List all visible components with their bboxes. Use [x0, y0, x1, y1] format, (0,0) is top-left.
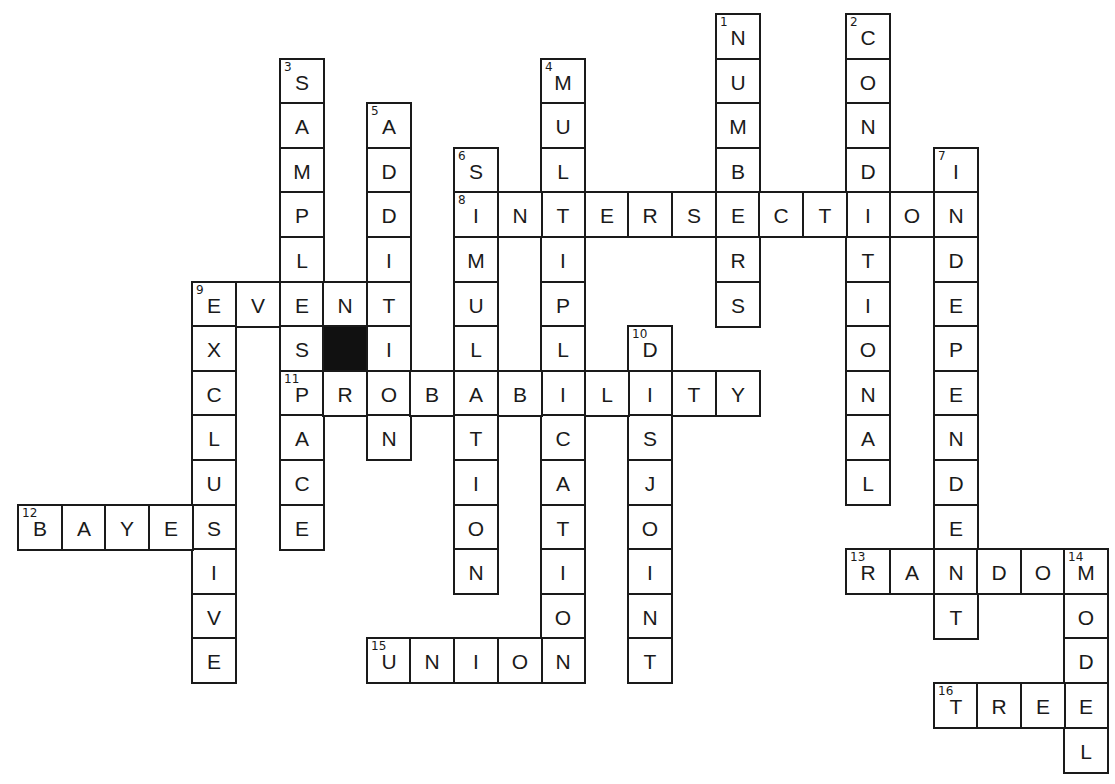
- crossword-cell[interactable]: D: [933, 236, 979, 283]
- crossword-cell[interactable]: O: [627, 504, 673, 551]
- crossword-cell[interactable]: O: [889, 191, 935, 238]
- crossword-cell[interactable]: L: [584, 370, 630, 417]
- crossword-cell[interactable]: A: [540, 459, 586, 506]
- crossword-cell[interactable]: A: [279, 414, 325, 461]
- crossword-cell[interactable]: M: [279, 147, 325, 194]
- crossword-cell[interactable]: A: [845, 414, 891, 461]
- crossword-cell[interactable]: I: [627, 548, 673, 595]
- crossword-cell[interactable]: L: [540, 325, 586, 372]
- crossword-cell[interactable]: I: [540, 370, 586, 417]
- crossword-cell[interactable]: Y: [715, 370, 761, 417]
- crossword-cell[interactable]: T: [933, 593, 979, 640]
- crossword-cell[interactable]: E: [933, 370, 979, 417]
- crossword-cell[interactable]: O: [1063, 593, 1109, 640]
- crossword-cell[interactable]: N: [453, 548, 499, 595]
- crossword-cell[interactable]: N: [845, 102, 891, 149]
- crossword-cell[interactable]: P: [279, 191, 325, 238]
- crossword-cell[interactable]: N: [933, 548, 979, 595]
- crossword-cell[interactable]: L: [1063, 727, 1109, 774]
- crossword-cell[interactable]: E: [148, 504, 194, 551]
- crossword-cell[interactable]: R: [976, 682, 1022, 729]
- crossword-cell[interactable]: O: [453, 504, 499, 551]
- crossword-cell[interactable]: I: [366, 236, 412, 283]
- crossword-cell[interactable]: D: [976, 548, 1022, 595]
- crossword-cell[interactable]: 10D: [627, 325, 673, 372]
- crossword-cell[interactable]: T: [671, 370, 717, 417]
- crossword-cell[interactable]: 9E: [191, 281, 237, 328]
- crossword-cell[interactable]: T: [540, 504, 586, 551]
- crossword-cell[interactable]: O: [497, 637, 543, 684]
- crossword-cell[interactable]: E: [584, 191, 630, 238]
- crossword-cell[interactable]: R: [627, 191, 673, 238]
- crossword-cell[interactable]: N: [366, 414, 412, 461]
- crossword-cell[interactable]: N: [933, 191, 979, 238]
- crossword-cell[interactable]: B: [715, 147, 761, 194]
- crossword-cell[interactable]: D: [366, 147, 412, 194]
- crossword-cell[interactable]: V: [191, 593, 237, 640]
- crossword-cell[interactable]: I: [540, 236, 586, 283]
- crossword-cell[interactable]: N: [409, 637, 455, 684]
- crossword-cell[interactable]: L: [279, 236, 325, 283]
- crossword-cell[interactable]: T: [453, 414, 499, 461]
- crossword-cell[interactable]: O: [366, 370, 412, 417]
- crossword-cell[interactable]: I: [845, 191, 891, 238]
- crossword-cell[interactable]: O: [845, 58, 891, 105]
- crossword-cell[interactable]: I: [453, 637, 499, 684]
- crossword-cell[interactable]: B: [409, 370, 455, 417]
- crossword-cell[interactable]: R: [715, 236, 761, 283]
- crossword-cell[interactable]: 12B: [17, 504, 63, 551]
- crossword-cell[interactable]: L: [191, 414, 237, 461]
- crossword-cell[interactable]: L: [845, 459, 891, 506]
- crossword-cell[interactable]: T: [845, 236, 891, 283]
- crossword-cell[interactable]: T: [366, 281, 412, 328]
- crossword-cell[interactable]: U: [453, 281, 499, 328]
- crossword-cell[interactable]: N: [497, 191, 543, 238]
- crossword-cell[interactable]: 11P: [279, 370, 325, 417]
- crossword-cell[interactable]: N: [627, 593, 673, 640]
- crossword-cell[interactable]: C: [758, 191, 804, 238]
- crossword-cell[interactable]: E: [191, 637, 237, 684]
- crossword-cell[interactable]: 2C: [845, 13, 891, 60]
- crossword-cell[interactable]: 1N: [715, 13, 761, 60]
- crossword-cell[interactable]: 6S: [453, 147, 499, 194]
- crossword-cell[interactable]: I: [627, 370, 673, 417]
- crossword-cell[interactable]: E: [1063, 682, 1109, 729]
- crossword-cell[interactable]: B: [497, 370, 543, 417]
- crossword-cell[interactable]: 15U: [366, 637, 412, 684]
- crossword-cell[interactable]: X: [191, 325, 237, 372]
- crossword-cell[interactable]: M: [453, 236, 499, 283]
- crossword-cell[interactable]: E: [933, 504, 979, 551]
- crossword-cell[interactable]: 5A: [366, 102, 412, 149]
- crossword-cell[interactable]: E: [715, 191, 761, 238]
- crossword-cell[interactable]: U: [191, 459, 237, 506]
- crossword-cell[interactable]: P: [933, 325, 979, 372]
- crossword-cell[interactable]: P: [540, 281, 586, 328]
- crossword-cell[interactable]: C: [191, 370, 237, 417]
- crossword-cell[interactable]: E: [1020, 682, 1066, 729]
- crossword-cell[interactable]: S: [191, 504, 237, 551]
- crossword-cell[interactable]: D: [845, 147, 891, 194]
- crossword-cell[interactable]: V: [235, 281, 281, 328]
- crossword-cell[interactable]: 4M: [540, 58, 586, 105]
- crossword-cell[interactable]: L: [540, 147, 586, 194]
- crossword-cell[interactable]: S: [627, 414, 673, 461]
- crossword-cell[interactable]: I: [845, 281, 891, 328]
- crossword-cell[interactable]: A: [61, 504, 107, 551]
- crossword-cell[interactable]: T: [802, 191, 848, 238]
- crossword-cell[interactable]: D: [933, 459, 979, 506]
- crossword-cell[interactable]: C: [540, 414, 586, 461]
- crossword-cell[interactable]: A: [889, 548, 935, 595]
- crossword-cell[interactable]: 7I: [933, 147, 979, 194]
- crossword-cell[interactable]: Y: [104, 504, 150, 551]
- crossword-cell[interactable]: U: [715, 58, 761, 105]
- crossword-cell[interactable]: 14M: [1063, 548, 1109, 595]
- crossword-cell[interactable]: A: [453, 370, 499, 417]
- crossword-cell[interactable]: I: [366, 325, 412, 372]
- crossword-cell[interactable]: N: [933, 414, 979, 461]
- crossword-cell[interactable]: I: [540, 548, 586, 595]
- crossword-cell[interactable]: S: [715, 281, 761, 328]
- crossword-cell[interactable]: C: [279, 459, 325, 506]
- crossword-cell[interactable]: E: [279, 504, 325, 551]
- crossword-cell[interactable]: S: [671, 191, 717, 238]
- crossword-cell[interactable]: N: [322, 281, 368, 328]
